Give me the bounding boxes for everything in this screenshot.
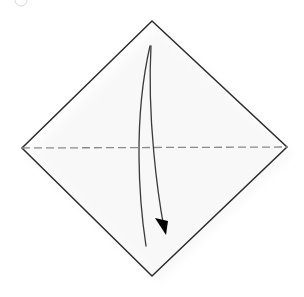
origami-fold-diagram (0, 0, 304, 297)
origami-diagram-page: A square sheet of paper shown as a diamo… (0, 0, 304, 297)
